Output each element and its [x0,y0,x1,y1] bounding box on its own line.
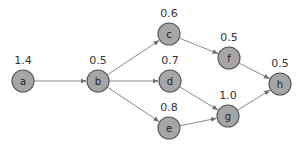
node-b: b0.5 [87,54,109,92]
node-label: h [277,79,283,90]
edge-b-c [107,41,159,75]
node-e: e0.8 [158,101,180,139]
edge-d-g [179,87,217,110]
nodes-group: a1.4b0.5c0.6d0.7e0.8f0.5g1.0h0.5 [12,7,291,139]
node-label: e [166,123,172,134]
node-label: f [227,53,231,64]
node-h: h0.5 [269,57,291,95]
edge-c-f [179,38,218,53]
node-a: a1.4 [12,54,34,92]
dependency-graph: a1.4b0.5c0.6d0.7e0.8f0.5g1.0h0.5 [0,0,307,149]
node-weight: 1.0 [219,89,237,102]
node-d: d0.7 [159,54,181,92]
node-label: c [166,29,172,40]
edge-b-e [107,87,159,121]
edge-f-h [239,63,270,79]
node-weight: 0.7 [161,54,179,67]
edge-e-g [180,118,216,125]
node-label: d [167,76,173,87]
node-c: c0.6 [158,7,180,45]
node-weight: 0.5 [89,54,107,67]
node-f: f0.5 [218,31,240,69]
node-label: g [225,111,231,122]
node-label: a [20,76,26,87]
edge-g-h [237,90,269,110]
node-label: b [95,76,101,87]
node-weight: 0.6 [160,7,178,20]
node-weight: 1.4 [14,54,32,67]
node-weight: 0.5 [271,57,289,70]
node-weight: 0.5 [220,31,238,44]
node-weight: 0.8 [160,101,178,114]
node-g: g1.0 [217,89,239,127]
